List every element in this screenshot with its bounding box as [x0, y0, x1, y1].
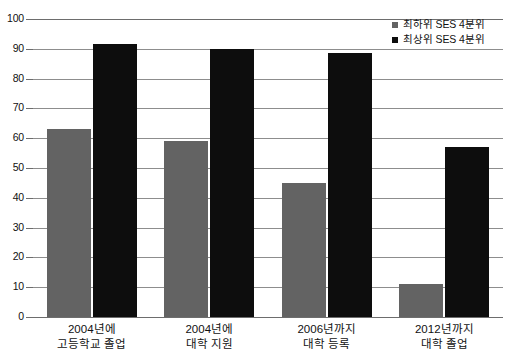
legend-label: 최상위 SES 4분위: [403, 34, 485, 45]
y-axis-tick-mark: [26, 317, 33, 318]
x-label-line-2: 대학 지원: [151, 337, 269, 352]
y-axis-tick-mark: [26, 138, 33, 139]
y-axis-tick-mark: [26, 287, 33, 288]
legend-item-lowest-ses: 최하위 SES 4분위: [392, 18, 504, 31]
bar-lowest-ses: [47, 129, 91, 317]
bar-lowest-ses: [399, 284, 443, 317]
x-label-line-1: 2004년에: [33, 322, 151, 337]
y-axis-tick-mark: [26, 168, 33, 169]
bar-lowest-ses: [282, 183, 326, 317]
x-label-line-1: 2006년까지: [268, 322, 386, 337]
y-axis-tick-label: 100: [0, 13, 24, 24]
bar-chart: 1009080706050403020100 2004년에고등학교 졸업2004…: [0, 0, 507, 363]
x-axis-labels: 2004년에고등학교 졸업2004년에대학 지원2006년까지대학 등록2012…: [33, 322, 503, 363]
y-axis-tick-mark: [26, 108, 33, 109]
y-axis-tick-label: 80: [0, 73, 24, 84]
square-marker-black-icon: [392, 37, 398, 43]
chart-legend: 최하위 SES 4분위 최상위 SES 4분위: [392, 18, 504, 48]
y-axis-tick-label: 20: [0, 251, 24, 262]
x-axis-category-label: 2006년까지대학 등록: [268, 322, 386, 352]
y-axis-tick-label: 10: [0, 281, 24, 292]
y-axis-tick-mark: [26, 198, 33, 199]
y-axis-tick-mark: [26, 19, 33, 20]
x-label-line-2: 대학 졸업: [386, 337, 504, 352]
y-axis: 1009080706050403020100: [0, 19, 24, 317]
y-axis-tick-mark: [26, 49, 33, 50]
legend-item-highest-ses: 최상위 SES 4분위: [392, 33, 504, 46]
bar-lowest-ses: [164, 141, 208, 317]
y-axis-tick-mark: [26, 79, 33, 80]
x-axis-category-label: 2012년까지대학 졸업: [386, 322, 504, 352]
bar-highest-ses: [328, 53, 372, 317]
x-label-line-2: 대학 등록: [268, 337, 386, 352]
x-label-line-2: 고등학교 졸업: [33, 337, 151, 352]
x-label-line-1: 2012년까지: [386, 322, 504, 337]
y-axis-tick-label: 90: [0, 43, 24, 54]
y-axis-tick-label: 60: [0, 132, 24, 143]
y-axis-tick-mark: [26, 228, 33, 229]
y-axis-tick-label: 40: [0, 192, 24, 203]
x-axis-category-label: 2004년에고등학교 졸업: [33, 322, 151, 352]
square-marker-gray-icon: [392, 22, 398, 28]
bar-highest-ses: [93, 44, 137, 317]
y-axis-tick-label: 50: [0, 162, 24, 173]
y-axis-tick-label: 70: [0, 102, 24, 113]
legend-label: 최하위 SES 4분위: [403, 19, 485, 30]
bar-highest-ses: [445, 147, 489, 317]
y-axis-tick-mark: [26, 257, 33, 258]
y-axis-tick-label: 0: [0, 311, 24, 322]
x-label-line-1: 2004년에: [151, 322, 269, 337]
y-axis-tick-label: 30: [0, 222, 24, 233]
grid-line: [33, 317, 503, 318]
bar-highest-ses: [210, 49, 254, 317]
bars-layer: [33, 19, 503, 317]
x-axis-category-label: 2004년에대학 지원: [151, 322, 269, 352]
